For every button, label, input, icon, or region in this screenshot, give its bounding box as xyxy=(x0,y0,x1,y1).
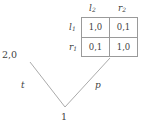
col-head-l2-sub: 2 xyxy=(92,6,96,13)
edge-label-t: t xyxy=(21,81,25,90)
game-theory-figure: l2 r2 l1 r1 1,0 0,1 0,1 1,0 2,0 t p 1 xyxy=(0,0,143,126)
matrix-row: 0,1 1,0 xyxy=(82,37,137,57)
payoff-matrix: 1,0 0,1 0,1 1,0 xyxy=(81,17,138,57)
row-head-l1-sub: 1 xyxy=(72,25,76,32)
row-head-r1-sub: 1 xyxy=(73,45,77,52)
matrix-row-header-r1: r1 xyxy=(69,43,77,52)
terminal-payoff-left: 2,0 xyxy=(2,50,17,60)
tree-edge-right xyxy=(65,58,110,107)
matrix-cell-l1-r2: 0,1 xyxy=(109,18,137,37)
matrix-row: 1,0 0,1 xyxy=(82,18,137,37)
matrix-cell-l1-l2: 1,0 xyxy=(82,18,109,37)
matrix-column-header-l2: l2 xyxy=(89,4,96,13)
matrix-column-header-r2: r2 xyxy=(118,4,126,13)
col-head-r2-sub: 2 xyxy=(122,6,126,13)
matrix-row-header-l1: l1 xyxy=(69,23,76,32)
matrix-cell-r1-r2: 1,0 xyxy=(109,38,137,57)
tree-edge-left xyxy=(30,62,65,107)
matrix-cell-r1-l2: 0,1 xyxy=(82,38,109,57)
root-node-label: 1 xyxy=(61,112,67,122)
edge-label-p: p xyxy=(95,81,101,90)
